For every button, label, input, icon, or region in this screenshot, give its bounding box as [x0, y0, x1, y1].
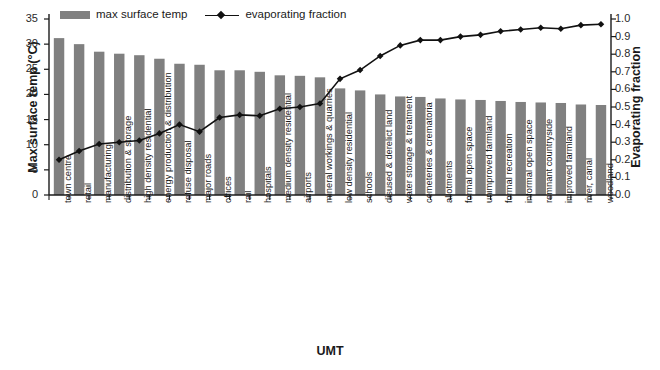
- bar: [355, 90, 365, 195]
- data-point-marker: [517, 26, 524, 33]
- bar: [275, 75, 285, 195]
- data-point-marker: [457, 33, 464, 40]
- bar: [154, 59, 164, 195]
- bar: [395, 96, 405, 195]
- data-point-marker: [437, 37, 444, 44]
- y-axis-right: [611, 14, 616, 195]
- bar: [295, 76, 305, 195]
- data-point-marker: [537, 25, 544, 32]
- bar: [74, 44, 84, 195]
- plot-area: [0, 0, 660, 370]
- data-point-marker: [397, 42, 404, 49]
- bar: [536, 102, 546, 195]
- bar: [94, 52, 104, 195]
- bar: [556, 103, 566, 195]
- x-axis: [49, 195, 611, 200]
- bar: [114, 54, 124, 195]
- bar: [596, 105, 606, 195]
- data-point-marker: [558, 25, 565, 32]
- bar: [415, 97, 425, 195]
- bar-series: [54, 38, 606, 195]
- data-point-marker: [578, 22, 585, 29]
- data-point-marker: [417, 37, 424, 44]
- bar: [255, 72, 265, 195]
- bar: [475, 100, 485, 195]
- data-point-marker: [477, 32, 484, 39]
- chart-container: max surface temp evaporating fraction Ma…: [0, 0, 660, 370]
- bar: [455, 99, 465, 195]
- data-point-marker: [598, 21, 605, 28]
- bar: [515, 102, 525, 195]
- bar: [435, 98, 445, 195]
- y-axis-left: [44, 14, 49, 195]
- bar: [134, 55, 144, 195]
- bar: [54, 38, 64, 195]
- bar: [335, 88, 345, 195]
- bar: [234, 70, 244, 195]
- bar: [495, 101, 505, 195]
- bar: [315, 77, 325, 195]
- bar: [375, 94, 385, 195]
- bar: [576, 104, 586, 195]
- bar: [174, 64, 184, 195]
- bar: [214, 70, 224, 195]
- data-point-marker: [497, 28, 504, 35]
